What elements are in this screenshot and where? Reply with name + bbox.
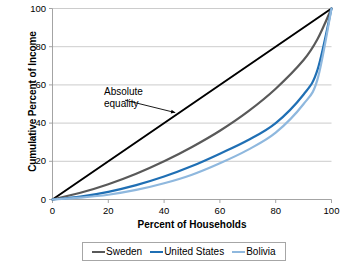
y-tick-label-100: 100	[20, 3, 46, 14]
legend-item-label: United States	[164, 246, 224, 257]
legend-item-label: Bolivia	[246, 246, 275, 257]
y-tick-label-0: 0	[20, 194, 46, 205]
lorenz-curve-chart: Cumulative Percent of Income 02040608010…	[0, 0, 349, 265]
y-tick-label-20: 20	[20, 155, 46, 166]
x-tick-label-60: 60	[205, 205, 235, 216]
series-lines	[53, 9, 332, 200]
x-tick-label-0: 0	[38, 205, 68, 216]
legend-swatch-icon	[92, 251, 105, 253]
chart-legend: SwedenUnited StatesBolivia	[82, 242, 286, 261]
legend-item-united-states[interactable]: United States	[150, 246, 224, 257]
x-tick-label-100: 100	[317, 205, 347, 216]
x-tick-label-40: 40	[149, 205, 179, 216]
absolute-equality-annotation: Absolute equality	[104, 86, 143, 110]
series-line-absolute-equality	[53, 9, 332, 200]
legend-item-label: Sweden	[106, 246, 142, 257]
legend-item-bolivia[interactable]: Bolivia	[232, 246, 275, 257]
legend-item-sweden[interactable]: Sweden	[92, 246, 142, 257]
x-tick-label-20: 20	[93, 205, 123, 216]
y-tick-label-40: 40	[20, 117, 46, 128]
y-tick-label-60: 60	[20, 79, 46, 90]
y-tick-label-80: 80	[20, 41, 46, 52]
x-tick-label-80: 80	[261, 205, 291, 216]
x-axis-title: Percent of Households	[52, 219, 332, 230]
gridlines	[53, 9, 332, 162]
legend-swatch-icon	[150, 251, 163, 253]
legend-swatch-icon	[232, 251, 245, 253]
